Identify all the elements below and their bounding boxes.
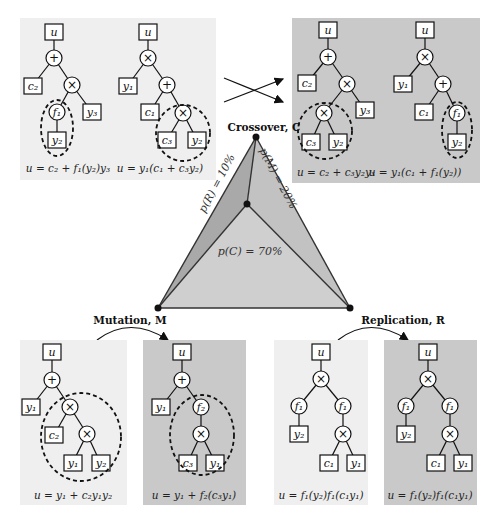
svg-text:u: u xyxy=(324,24,331,37)
svg-text:y₃: y₃ xyxy=(86,106,98,119)
probability-point xyxy=(244,201,251,208)
svg-text:×: × xyxy=(67,78,77,92)
svg-text:c₃: c₃ xyxy=(306,136,317,149)
svg-text:f₂: f₂ xyxy=(196,401,205,414)
svg-text:×: × xyxy=(420,50,430,64)
svg-text:c₂: c₂ xyxy=(302,77,313,90)
svg-text:y₁: y₁ xyxy=(67,457,79,470)
svg-text:y₂: y₂ xyxy=(332,136,344,149)
svg-text:u: u xyxy=(144,26,151,39)
replication-before-equation: u = f₁(y₂)f₁(c₁y₁) xyxy=(278,489,363,501)
svg-text:×: × xyxy=(445,427,455,441)
svg-text:×: × xyxy=(143,51,153,65)
crossover-arrows-icon xyxy=(224,78,283,102)
svg-text:f₁: f₁ xyxy=(445,400,454,413)
svg-text:c₃: c₃ xyxy=(162,134,173,147)
mutation-arrow-icon xyxy=(97,328,168,341)
child1-equation: u = c₂ + c₃y₂y₃ xyxy=(297,166,375,178)
svg-text:y₁: y₁ xyxy=(122,80,134,93)
svg-text:y₁: y₁ xyxy=(155,401,167,414)
svg-text:y₁: y₁ xyxy=(397,78,409,91)
svg-text:y₂: y₂ xyxy=(51,134,63,147)
svg-text:y₁: y₁ xyxy=(457,457,469,470)
svg-text:c₁: c₁ xyxy=(431,457,442,470)
svg-text:f₁: f₁ xyxy=(401,400,410,413)
crossover-children-panel xyxy=(292,18,480,183)
svg-text:y₂: y₂ xyxy=(95,457,107,470)
svg-text:c₁: c₁ xyxy=(145,106,156,119)
svg-text:+: + xyxy=(47,373,57,387)
genetic-programming-diagram: u + c₂ × f₁ y₃ y₂ u = c₂ + f₁(y₂)y₃ u × … xyxy=(0,0,496,525)
svg-text:×: × xyxy=(196,427,206,441)
svg-text:u: u xyxy=(424,346,431,359)
svg-text:×: × xyxy=(319,106,329,120)
svg-text:u: u xyxy=(421,24,428,37)
svg-text:×: × xyxy=(178,106,188,120)
svg-text:×: × xyxy=(338,427,348,441)
mutation-before-equation: u = y₁ + c₂y₁y₂ xyxy=(34,489,112,501)
svg-text:+: + xyxy=(49,51,59,65)
svg-text:c₃: c₃ xyxy=(183,457,194,470)
svg-text:f₁: f₁ xyxy=(52,106,61,119)
svg-text:y₂: y₂ xyxy=(451,136,463,149)
replication-arrow-icon xyxy=(338,328,408,341)
prob-crossover-label: p(C) = 70% xyxy=(218,245,283,258)
crossover-title: Crossover, C xyxy=(228,121,301,133)
replication-after-panel xyxy=(384,340,477,505)
svg-text:×: × xyxy=(65,400,75,414)
svg-text:c₂: c₂ xyxy=(49,429,60,442)
svg-text:×: × xyxy=(423,372,433,386)
svg-text:+: + xyxy=(162,78,172,92)
svg-text:×: × xyxy=(342,77,352,91)
svg-text:f₁: f₁ xyxy=(452,107,461,120)
svg-text:y₁: y₁ xyxy=(350,457,362,470)
svg-text:c₂: c₂ xyxy=(28,80,39,93)
svg-text:u: u xyxy=(48,346,55,359)
svg-text:×: × xyxy=(82,427,92,441)
svg-text:y₂: y₂ xyxy=(293,428,305,441)
svg-text:u: u xyxy=(178,346,185,359)
svg-text:y₂: y₂ xyxy=(400,428,412,441)
svg-text:y₃: y₃ xyxy=(359,104,371,117)
mutation-after-panel xyxy=(143,340,246,505)
svg-text:×: × xyxy=(316,372,326,386)
svg-text:+: + xyxy=(177,373,187,387)
svg-text:+: + xyxy=(438,77,448,91)
svg-text:u: u xyxy=(317,346,324,359)
mutation-after-equation: u = y₁ + f₂(c₃y₁) xyxy=(152,489,236,501)
svg-text:y₁: y₁ xyxy=(25,401,37,414)
svg-text:y₂: y₂ xyxy=(191,134,203,147)
child2-equation: u = y₁(c₁ + f₁(y₂)) xyxy=(369,166,462,178)
replication-title: Replication, R xyxy=(361,314,445,326)
mutation-title: Mutation, M xyxy=(93,314,167,326)
svg-text:f₁: f₁ xyxy=(294,400,303,413)
svg-text:y₁: y₁ xyxy=(209,457,221,470)
parent1-equation: u = c₂ + f₁(y₂)y₃ xyxy=(26,162,110,174)
svg-text:+: + xyxy=(323,50,333,64)
svg-text:u: u xyxy=(50,26,57,39)
svg-text:f₁: f₁ xyxy=(338,400,347,413)
vertex-mutation xyxy=(155,305,162,312)
svg-text:c₁: c₁ xyxy=(419,106,430,119)
vertex-crossover xyxy=(253,134,260,141)
parent2-equation: u = y₁(c₁ + c₃y₂) xyxy=(117,162,203,174)
svg-text:c₁: c₁ xyxy=(324,457,335,470)
replication-after-equation: u = f₁(y₂)f₁(c₁y₁) xyxy=(387,489,472,501)
vertex-replication xyxy=(347,305,354,312)
crossover-parents-panel xyxy=(20,18,216,180)
